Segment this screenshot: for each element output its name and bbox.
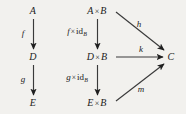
commutative-diagram: A D E f g A×B D×B E×B C f×idB g×idB h k … bbox=[0, 0, 186, 114]
object-E: E bbox=[30, 98, 36, 108]
arrow-m bbox=[116, 64, 164, 101]
map-g: g bbox=[66, 72, 71, 82]
object-A: A bbox=[30, 6, 36, 16]
arrow-label-m: m bbox=[138, 85, 145, 94]
arrow-label-h: h bbox=[137, 20, 142, 29]
arrow-label-g: g bbox=[21, 75, 26, 84]
object-A-times-B: A×B bbox=[87, 6, 106, 16]
object-E-times-B: E×B bbox=[87, 98, 106, 108]
object-C: C bbox=[168, 52, 175, 62]
object-D: D bbox=[29, 52, 36, 62]
object-A-times-B-rhs: B bbox=[100, 5, 106, 16]
arrow-label-f: f bbox=[22, 29, 25, 38]
object-D-times-B: D×B bbox=[87, 52, 107, 62]
identity-map: id bbox=[77, 72, 84, 82]
arrow-label-k: k bbox=[139, 45, 143, 54]
object-D-times-B-rhs: B bbox=[101, 51, 107, 62]
arrow-label-f-times-id: f×idB bbox=[67, 27, 87, 37]
identity-subscript: B bbox=[83, 31, 87, 37]
object-E-times-B-rhs: B bbox=[100, 97, 106, 108]
identity-map: id bbox=[76, 26, 83, 36]
arrow-label-g-times-id: g×idB bbox=[66, 73, 88, 83]
identity-subscript: B bbox=[84, 77, 88, 83]
